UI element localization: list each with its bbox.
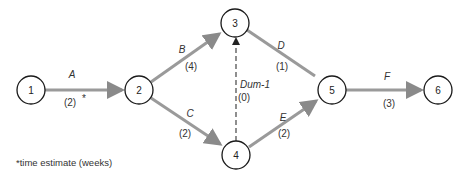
edge-e-activity: E [280, 112, 287, 123]
footnote-time-estimate: *time estimate (weeks) [16, 157, 112, 168]
node-5: 5 [318, 76, 346, 104]
edge-e [249, 101, 316, 147]
edge-b [151, 34, 219, 82]
network-diagram: A (2) * B (4) C (2) Dum-1 (0) D (1) E (2… [0, 0, 469, 180]
node-4: 4 [222, 141, 250, 169]
edge-c-duration: (2) [179, 128, 191, 139]
edge-a-duration: (2) [64, 97, 76, 108]
edge-a-activity: A [68, 69, 76, 80]
edge-d-activity: D [277, 40, 284, 51]
node-1: 1 [17, 76, 45, 104]
edge-e-duration: (2) [278, 128, 290, 139]
node-3-label: 3 [232, 18, 238, 29]
node-1-label: 1 [28, 85, 34, 96]
edge-f-activity: F [384, 71, 391, 82]
edge-b-duration: (4) [185, 61, 197, 72]
edge-dummy-activity: Dum-1 [240, 79, 270, 90]
edge-f-duration: (3) [383, 98, 395, 109]
edge-c-activity: C [186, 108, 194, 119]
node-2: 2 [125, 76, 153, 104]
node-4-label: 4 [233, 150, 239, 161]
node-6: 6 [424, 76, 452, 104]
node-6-label: 6 [435, 85, 441, 96]
edge-dummy-duration: (0) [238, 92, 250, 103]
edge-d-duration: (1) [276, 61, 288, 72]
edge-b-activity: B [179, 44, 186, 55]
node-3: 3 [221, 9, 249, 37]
edge-a-asterisk: * [82, 93, 86, 104]
node-5-label: 5 [329, 85, 335, 96]
node-2-label: 2 [136, 85, 142, 96]
